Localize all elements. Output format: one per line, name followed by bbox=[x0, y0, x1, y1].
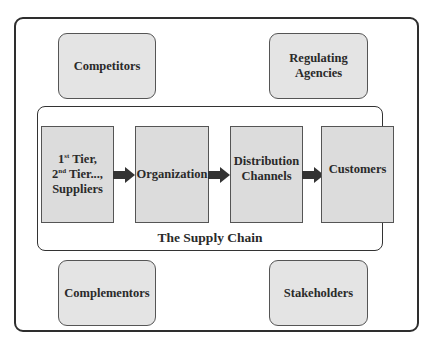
organization-label: Organization bbox=[137, 167, 208, 182]
supply-chain-title: The Supply Chain bbox=[37, 230, 383, 246]
complementors-box: Complementors bbox=[58, 260, 156, 326]
stage-suppliers: 1st Tier, 2nd Tier..., Suppliers bbox=[41, 126, 114, 223]
suppliers-label: 1st Tier, 2nd Tier..., Suppliers bbox=[52, 152, 103, 197]
regulating-agencies-label: Regulating Agencies bbox=[284, 51, 354, 81]
right-arrow-icon bbox=[208, 167, 230, 183]
complementors-label: Complementors bbox=[64, 286, 149, 301]
competitors-box: Competitors bbox=[58, 33, 156, 99]
stage-organization: Organization bbox=[135, 126, 209, 223]
competitors-label: Competitors bbox=[74, 59, 141, 74]
regulating-agencies-box: Regulating Agencies bbox=[269, 33, 368, 99]
stakeholders-box: Stakeholders bbox=[269, 260, 368, 326]
right-arrow-icon bbox=[113, 167, 135, 183]
stakeholders-label: Stakeholders bbox=[284, 286, 353, 301]
distribution-channels-label: Distribution Channels bbox=[234, 154, 300, 184]
customers-label: Customers bbox=[329, 162, 387, 177]
stage-customers: Customers bbox=[321, 126, 394, 223]
stage-distribution-channels: Distribution Channels bbox=[230, 126, 303, 223]
